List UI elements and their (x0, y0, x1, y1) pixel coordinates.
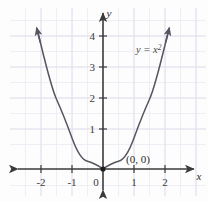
plot-background (0, 0, 208, 202)
y-tick-label-2: 2 (90, 92, 96, 104)
y-tick-label-1: 1 (90, 123, 96, 135)
y-axis-label: y (106, 7, 112, 19)
parabola-figure: b. (0, 0, 208, 202)
x-tick-label-2: 2 (162, 176, 168, 188)
origin-point-annotation: (0, 0) (126, 153, 150, 166)
equation-base: y = x (135, 44, 158, 55)
x-tick-label-1: 1 (131, 176, 137, 188)
x-tick-label-neg2: -2 (36, 176, 45, 188)
coordinate-plot: -2 -1 1 2 0 4 3 2 1 y x (0, 0) y = x2 (0, 0, 208, 202)
x-axis-label: x (196, 170, 202, 182)
origin-tick-label: 0 (93, 176, 99, 188)
y-tick-label-4: 4 (90, 30, 96, 42)
vertex-point-marker (100, 166, 105, 171)
x-tick-label-neg1: -1 (67, 176, 76, 188)
y-tick-label-3: 3 (90, 61, 96, 73)
equation-exponent: 2 (158, 43, 162, 52)
